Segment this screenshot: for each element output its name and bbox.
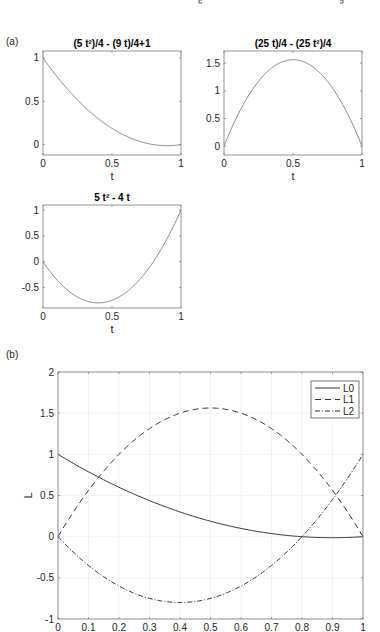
y-tick-label: 0.5 — [25, 230, 39, 241]
y-tick-label: 1 — [214, 85, 220, 96]
y-tick-label: -0.5 — [37, 572, 55, 583]
y-tick-label: -1 — [45, 614, 54, 625]
combined-plot: 00.10.20.30.40.50.60.70.80.91-1-0.500.51… — [22, 367, 366, 632]
subplot-title: (25 t)/4 - (25 t²)/4 — [255, 38, 332, 49]
x-axis-label: t — [110, 170, 113, 182]
y-tick-label: 2 — [48, 367, 54, 378]
curve-l0 — [43, 58, 181, 146]
x-tick-label: 0.5 — [105, 311, 119, 322]
y-tick-label: 1.5 — [206, 58, 220, 69]
legend-label-l0: L0 — [343, 383, 355, 394]
x-tick-label: 0 — [40, 311, 46, 322]
x-tick-label: 0.5 — [286, 158, 300, 169]
x-tick-label: 0 — [40, 158, 46, 169]
x-tick-label: 0 — [55, 622, 61, 632]
x-tick-label: 0.1 — [82, 622, 96, 632]
y-tick-label: 0 — [214, 141, 220, 152]
curve-l2 — [43, 210, 181, 303]
x-tick-label: 1 — [178, 311, 184, 322]
x-tick-label: 0.3 — [143, 622, 157, 632]
y-tick-label: 0 — [48, 531, 54, 542]
x-tick-label: 0.2 — [112, 622, 126, 632]
legend-label-l2: L2 — [343, 406, 355, 417]
y-axis-label: L — [22, 492, 34, 498]
panel-label-b: (b) — [6, 349, 18, 360]
axes: 00.51-0.500.51 — [22, 205, 184, 322]
legend-label-l1: L1 — [343, 394, 355, 405]
subplot-title: (5 t²)/4 - (9 t)/4+1 — [74, 38, 151, 49]
x-tick-label: 1 — [178, 158, 184, 169]
axes-box — [43, 51, 181, 155]
axes-box — [224, 51, 362, 155]
figure-canvas: (a) (b) 00.5100.51 (5 t²)/4 - (9 t)/4+1 … — [0, 0, 380, 632]
y-tick-label: 0.5 — [25, 96, 39, 107]
y-tick-label: 1 — [48, 449, 54, 460]
axes-box — [43, 205, 181, 308]
panel-label-a: (a) — [6, 36, 18, 47]
x-tick-label: 0 — [221, 158, 227, 169]
x-tick-label: 0.7 — [265, 622, 279, 632]
x-tick-label: 0.6 — [234, 622, 248, 632]
x-tick-label: 0.5 — [105, 158, 119, 169]
subplot-title: 5 t² - 4 t — [94, 192, 130, 203]
y-tick-label: 1 — [33, 205, 39, 216]
x-tick-label: 0.5 — [204, 622, 218, 632]
x-tick-label: 1 — [359, 158, 365, 169]
top-bracket — [199, 0, 343, 3]
x-tick-label: 1 — [360, 622, 366, 632]
axes: 00.5100.51 — [25, 51, 184, 169]
subplot-l1: 00.5100.511.5 (25 t)/4 - (25 t²)/4 t — [206, 38, 365, 182]
y-tick-label: 1 — [33, 52, 39, 63]
y-tick-label: 1.5 — [40, 408, 54, 419]
x-axis-label: t — [291, 170, 294, 182]
curve-l1 — [224, 60, 362, 146]
y-tick-label: 0.5 — [206, 113, 220, 124]
subplot-l0: 00.5100.51 (5 t²)/4 - (9 t)/4+1 t — [25, 38, 184, 182]
y-tick-label: 0.5 — [40, 490, 54, 501]
bracket-right-mark — [340, 0, 343, 3]
subplot-l2: 00.51-0.500.51 5 t² - 4 t t — [22, 192, 184, 335]
y-tick-label: 0 — [33, 256, 39, 267]
x-tick-label: 0.4 — [173, 622, 187, 632]
bracket-left-mark — [199, 0, 202, 3]
axes: 00.5100.511.5 — [206, 51, 365, 169]
x-axis-label: t — [110, 323, 113, 335]
legend: L0 L1 L2 — [311, 381, 359, 418]
y-tick-label: 0 — [33, 139, 39, 150]
y-tick-label: -0.5 — [22, 282, 40, 293]
x-tick-label: 0.8 — [295, 622, 309, 632]
x-tick-label: 0.9 — [326, 622, 340, 632]
